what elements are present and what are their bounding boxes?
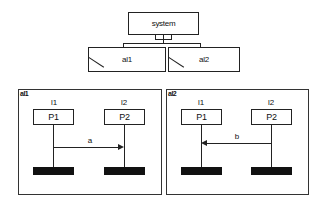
message-b-label: b <box>235 132 239 141</box>
lifeline-role-l1: l1 <box>198 98 204 107</box>
lifeline-head-p1: P1 <box>33 109 74 125</box>
lifeline-head-p2: P2 <box>251 109 292 125</box>
lifeline-end-bar-p2 <box>104 167 145 175</box>
sequence-panel-al2: al2 <box>166 89 309 195</box>
message-a-line <box>53 147 119 148</box>
connector-stem <box>163 34 164 43</box>
child-node-al2: al2 <box>168 47 240 72</box>
lifeline-p2 <box>124 125 125 168</box>
connector-bar <box>123 43 201 44</box>
panel-title: al2 <box>168 90 176 97</box>
arrow-left-icon <box>201 140 207 146</box>
system-node: system <box>128 12 199 35</box>
lifeline-p2 <box>271 125 272 168</box>
panel-title: al1 <box>20 90 28 97</box>
lifeline-end-bar-p1 <box>181 167 222 175</box>
lifeline-head-p2: P2 <box>104 109 145 125</box>
lifeline-end-bar-p2 <box>251 167 292 175</box>
arrow-right-icon <box>118 144 124 150</box>
lifeline-role-l2: l2 <box>268 98 274 107</box>
lifeline-role-l2: l2 <box>121 98 127 107</box>
al1-label: al1 <box>122 55 132 64</box>
lifeline-end-bar-p1 <box>33 167 74 175</box>
lifeline-head-p1: P1 <box>181 109 222 125</box>
lifeline-role-l1: l1 <box>51 98 57 107</box>
al2-label: al2 <box>199 55 209 64</box>
message-b-line <box>206 143 271 144</box>
child-node-al1: al1 <box>88 47 166 72</box>
message-a-label: a <box>88 136 92 145</box>
system-label: system <box>152 19 176 28</box>
lifeline-p1 <box>201 125 202 168</box>
